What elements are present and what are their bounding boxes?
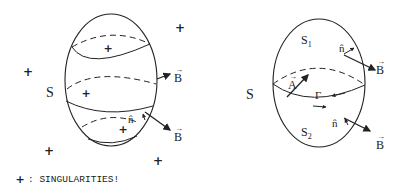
singularity-marker: +: [81, 87, 90, 100]
surface-label: S: [246, 87, 254, 102]
vector-arrow-accent: →: [377, 57, 385, 66]
band-2-dashed: [67, 77, 156, 89]
normal-upper-label: n̂: [339, 42, 345, 54]
field-vector-lower: [145, 112, 170, 130]
legend-marker: +: [15, 173, 24, 186]
singularity-marker: +: [175, 21, 185, 35]
orientation-arrow-upper: [332, 93, 345, 96]
vector-arrow-accent: →: [175, 65, 183, 74]
closed-surface-outline: [65, 14, 157, 146]
legend-text: : SINGULARITIES!: [28, 174, 119, 185]
band-2-solid: [66, 101, 153, 112]
normal-lower-label: n̂: [332, 117, 338, 129]
normal-label: n̂: [128, 113, 134, 125]
upper-cap-label: S1: [301, 33, 312, 49]
singularity-marker: +: [103, 42, 112, 55]
vector-arrow-accent: →: [175, 124, 183, 133]
field-vector-upper: [157, 74, 170, 79]
vector-arrow-accent: →: [377, 132, 385, 141]
singularity-marker: +: [44, 144, 54, 158]
singularity-marker: +: [118, 123, 127, 136]
field-vector-upper: [344, 55, 375, 70]
closed-surface-outline: [273, 19, 365, 147]
surface-label: S: [46, 85, 54, 100]
orientation-arrow-lower: [313, 106, 326, 107]
right-surface-diagram: S S1 S2 n̂ B → A → Γ n̂ B →: [246, 19, 385, 152]
lower-cap-label: S2: [301, 125, 312, 141]
singularity-marker: +: [23, 65, 33, 79]
left-surface-diagram: + + + + + + + S B → B → n̂: [23, 14, 185, 168]
singularity-marker: +: [153, 154, 163, 168]
curve-label: Γ: [315, 89, 321, 101]
normal-upper-vector: [344, 48, 354, 54]
vector-arrow-accent: →: [289, 72, 297, 81]
legend: + : SINGULARITIES!: [15, 173, 119, 186]
normal-vector: [143, 114, 145, 120]
boundary-curve-back: [273, 68, 365, 85]
